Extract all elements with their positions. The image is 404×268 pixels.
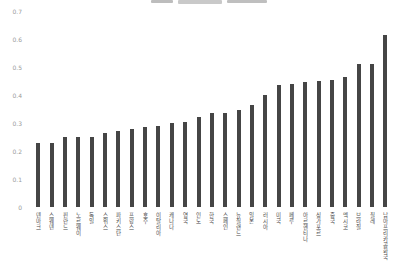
x-axis-category-label: 캐나다 [167,212,176,230]
bar [103,133,107,207]
x-axis-category-label: 뉴질랜드 [234,212,243,236]
bar [250,105,254,207]
x-axis-category-label: 일본 [247,212,256,224]
bar [223,113,227,207]
bar [143,127,147,207]
x-axis-category-label: 인도 [194,212,203,224]
bar [343,77,347,207]
x-axis-category-label: 멕시코 [341,212,350,230]
x-axis-category-label: 호주 [141,212,150,224]
bar [263,95,267,207]
x-axis-category-label: 한국 [207,212,216,224]
bar [90,137,94,207]
x-axis-category-label: 중국 [328,212,337,224]
x-axis-category-label: 스페인 [221,212,230,230]
y-axis-tick-label: 0 [0,204,22,211]
x-axis-category-label: 칠레 [368,212,377,224]
plot-area: 덴마크스웨덴핀란드노르웨이독일스위스파키스탄프랑스호주이탈리아캐나다영국인도한국… [24,0,404,268]
bar [156,126,160,207]
bar [76,137,80,207]
bar [170,123,174,207]
bar [370,64,374,207]
bar [383,35,387,207]
bar [237,110,241,207]
x-axis-category-label: 이탈리아 [154,212,163,236]
x-axis-category-label: 스웨덴 [47,212,56,230]
x-axis-category-label: 러시아 [261,212,270,230]
bar [63,137,67,207]
bar [357,64,361,207]
bar-chart: 00.10.20.30.40.50.60.7 덴마크스웨덴핀란드노르웨이독일스위… [0,0,404,268]
y-axis-tick-label: 0.3 [0,120,22,127]
y-axis-tick-label: 0.7 [0,8,22,15]
bar [317,81,321,207]
bar [277,85,281,207]
x-axis-category-label: 핀란드 [61,212,70,230]
y-axis-tick-label: 0.6 [0,36,22,43]
x-axis-category-label: 페루 [287,212,296,224]
x-axis-category-label: 싱가포르 [314,212,323,236]
bar [116,131,120,207]
x-axis-category-label: 남아프리카공화국 [381,212,390,260]
x-axis-category-label: 독일 [87,212,96,224]
bar [210,113,214,207]
x-axis-category-label: 브라질 [354,212,363,230]
x-axis-category-label: 영국 [181,212,190,224]
x-axis-category-label: 프랑스 [127,212,136,230]
bar [303,82,307,207]
bar [36,143,40,207]
x-axis-category-label: 파키스탄 [114,212,123,236]
x-axis-category-label: 덴마크 [34,212,43,230]
y-axis-tick-label: 0.4 [0,92,22,99]
x-axis-category-label: 아르헨티나 [301,212,310,242]
y-axis-tick-label: 0.1 [0,176,22,183]
bar [130,129,134,207]
bar [330,80,334,207]
y-axis: 00.10.20.30.40.50.60.7 [0,0,24,268]
x-axis-category-label: 미국 [274,212,283,224]
bar [183,122,187,207]
y-axis-tick-label: 0.2 [0,148,22,155]
x-axis-category-label: 스위스 [101,212,110,230]
bar [290,84,294,207]
x-axis-category-label: 노르웨이 [74,212,83,236]
bar [50,143,54,207]
bar [197,117,201,207]
y-axis-tick-label: 0.5 [0,64,22,71]
